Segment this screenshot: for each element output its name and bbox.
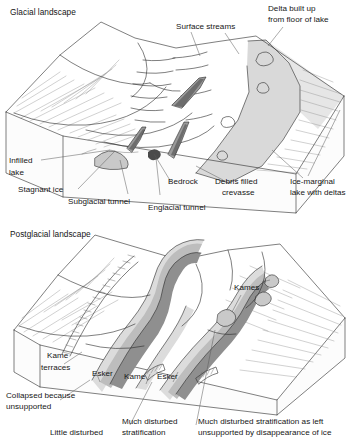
panel-glacial-landscape: Glacial landscape Surface streams Delta … [6, 4, 346, 213]
label-subglacial-tunnel: Subglacial tunnel [68, 197, 130, 206]
label-stagnant-ice: Stagnant ice [18, 185, 64, 194]
label-bedrock: Bedrock [168, 177, 199, 186]
label-much-disturbed-line2: stratification [122, 428, 165, 437]
label-delta-line2: from floor of lake [268, 15, 329, 24]
label-kames: Kames [234, 283, 259, 292]
block-diagram-svg: Glacial landscape Surface streams Delta … [0, 0, 357, 444]
label-kame-terraces-line2: terraces [41, 363, 70, 372]
label-ice-marginal-line1: Ice-marginal [290, 177, 335, 186]
label-kame: Kame [124, 372, 146, 381]
label-esker-right: Esker [157, 372, 178, 381]
label-ice-marginal-line2: lake with deltas [290, 188, 346, 197]
label-kame-terraces-line1: Kame [47, 351, 69, 360]
label-infilled-lake-line2: lake [9, 168, 24, 177]
label-much-disturbed-left-line1: Much disturbed stratification as left [198, 417, 324, 426]
panel-title-glacial: Glacial landscape [10, 7, 76, 17]
label-surface-streams: Surface streams [176, 22, 235, 31]
label-infilled-lake-line1: Infilled [9, 156, 33, 165]
label-collapsed-line2: unsupported [6, 402, 51, 411]
label-collapsed-line1: Collapsed because [6, 391, 76, 400]
label-englacial-tunnel: Englacial tunnel [148, 203, 206, 212]
figure-root: Glacial landscape Surface streams Delta … [0, 0, 357, 444]
label-much-disturbed-line1: Much disturbed [122, 417, 178, 426]
label-much-disturbed-left-line2: unsupported by disappearance of ice [198, 428, 332, 437]
panel-title-postglacial: Postglacial landscape [10, 229, 91, 239]
label-debris-crevasse-line1: Debris filled [215, 177, 258, 186]
label-delta-line1: Delta built up [268, 4, 316, 13]
label-esker-left: Esker [92, 369, 113, 378]
label-debris-crevasse-line2: crevasse [222, 188, 255, 197]
panel-postglacial-landscape: Postglacial landscape Kames Kame terrace… [6, 229, 345, 437]
label-little-disturbed: Little disturbed [50, 428, 103, 437]
